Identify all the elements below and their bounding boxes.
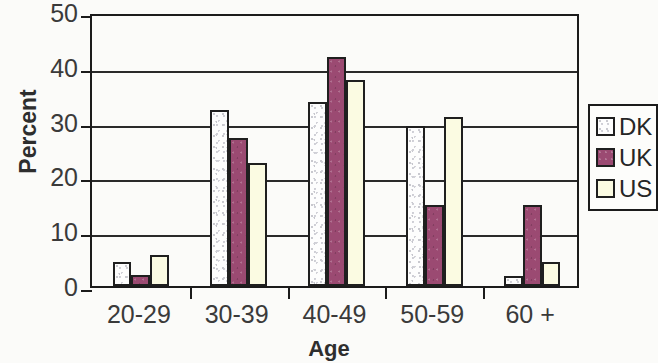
legend-swatch-icon: [596, 117, 615, 136]
legend-item: UK: [596, 142, 656, 173]
y-axis-tick-mark: [81, 290, 92, 292]
legend-label: US: [619, 177, 652, 201]
y-axis-tick-mark: [81, 235, 92, 237]
y-axis-tick-label: 10: [22, 220, 78, 245]
legend: DKUKUS: [588, 104, 658, 211]
y-axis-tick-mark: [81, 180, 92, 182]
x-axis-tick-mark: [483, 288, 485, 299]
legend-swatch-icon: [596, 179, 615, 198]
legend-item: DK: [596, 111, 656, 142]
x-axis-tick-mark: [288, 288, 290, 299]
bar: [248, 163, 267, 286]
plot-area: [90, 14, 579, 288]
y-axis-tick-label: 50: [22, 1, 78, 26]
x-axis-title: Age: [0, 336, 658, 362]
bar: [131, 275, 150, 286]
legend-label: DK: [619, 115, 652, 139]
bar: [308, 102, 327, 286]
y-axis-tick-label: 30: [22, 111, 78, 136]
bar: [229, 138, 248, 286]
x-axis-tick-label: 60 +: [470, 300, 590, 329]
bar: [523, 205, 542, 286]
bar: [406, 126, 425, 286]
bar: [542, 262, 561, 286]
bar: [346, 80, 365, 286]
chart-figure: Percent 01020304050 20-2930-3940-4950-59…: [0, 0, 658, 363]
bar: [150, 255, 169, 286]
legend-swatch-icon: [596, 148, 615, 167]
y-axis-tick-label: 40: [22, 56, 78, 81]
bar: [210, 110, 229, 286]
bar: [504, 276, 523, 286]
bar: [327, 57, 346, 286]
x-axis-tick-mark: [385, 288, 387, 299]
legend-item: US: [596, 173, 656, 204]
legend-label: UK: [619, 146, 652, 170]
y-axis-tick-label: 0: [22, 275, 78, 300]
bar: [444, 117, 463, 286]
bar: [425, 205, 444, 286]
y-axis-tick-label: 20: [22, 165, 78, 190]
y-axis-tick-mark: [81, 71, 92, 73]
y-axis-tick-mark: [81, 16, 92, 18]
bar: [113, 262, 132, 286]
bar-series-container: [92, 16, 577, 286]
x-axis-tick-mark: [190, 288, 192, 299]
y-axis-tick-labels: 01020304050: [12, 0, 78, 363]
y-axis-tick-mark: [81, 126, 92, 128]
